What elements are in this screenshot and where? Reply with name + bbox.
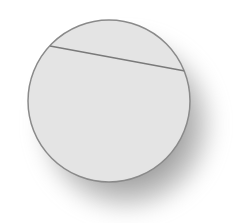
disc-graphic bbox=[0, 0, 235, 223]
disc-body bbox=[28, 20, 190, 182]
image-stage bbox=[0, 0, 235, 223]
